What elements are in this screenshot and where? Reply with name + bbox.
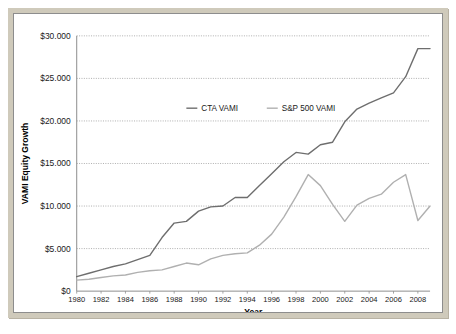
x-tick-label: 1980 (68, 295, 85, 304)
y-tick-label: $30.000 (40, 31, 71, 41)
x-tick-label: 2002 (336, 295, 353, 304)
y-axis-tick-labels: $30.000$25.000$20.000$15.000$10.000$5.00… (40, 31, 71, 296)
x-axis-title: Year (244, 307, 263, 312)
y-tick-label: $5.000 (45, 244, 71, 254)
x-tick-label: 1984 (117, 295, 134, 304)
y-tick-label: $15.000 (40, 158, 71, 168)
x-tick-label: 1990 (190, 295, 207, 304)
x-tick-label: 1998 (288, 295, 305, 304)
y-tick-label: $10.000 (40, 201, 71, 211)
figure-frame: $30.000$25.000$20.000$15.000$10.000$5.00… (8, 8, 448, 318)
x-tick-label: 1992 (215, 295, 232, 304)
legend-label-cta-vami: CTA VAMI (201, 104, 238, 113)
y-tick-label: $20.000 (40, 116, 71, 126)
y-axis-title: VAMI Equity Growth (20, 123, 30, 204)
x-tick-label: 1994 (239, 295, 256, 304)
y-tick-label: $25.000 (40, 73, 71, 83)
x-tick-label: 1986 (141, 295, 158, 304)
x-tick-label: 1996 (263, 295, 280, 304)
x-tick-label: 2000 (312, 295, 329, 304)
x-tick-label: 2004 (361, 295, 378, 304)
figure-inner-panel: $30.000$25.000$20.000$15.000$10.000$5.00… (13, 13, 443, 313)
legend-label-s-p-500-vami: S&P 500 VAMI (282, 104, 336, 113)
x-axis-tick-labels: 1980198219841986198819901992199419961998… (68, 295, 426, 304)
x-tick-label: 2006 (385, 295, 402, 304)
x-tick-label: 1982 (93, 295, 110, 304)
x-tick-label: 1988 (166, 295, 183, 304)
x-tick-label: 2008 (409, 295, 426, 304)
line-chart: $30.000$25.000$20.000$15.000$10.000$5.00… (14, 14, 442, 312)
